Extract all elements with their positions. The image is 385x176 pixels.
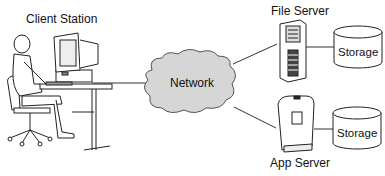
storage-label-2: Storage [337,127,377,139]
network-label: Network [170,76,214,90]
client-workstation-icon [8,33,113,150]
app-server-icon [278,96,314,152]
tower-server-icon [280,20,306,82]
file-server-label: File Server [271,4,329,18]
app-server-label: App Server [270,156,330,170]
client-station-label: Client Station [26,12,97,26]
edge-network-appserver [234,107,276,128]
edge-network-fileserver [233,44,277,64]
storage-label-1: Storage [338,46,378,58]
